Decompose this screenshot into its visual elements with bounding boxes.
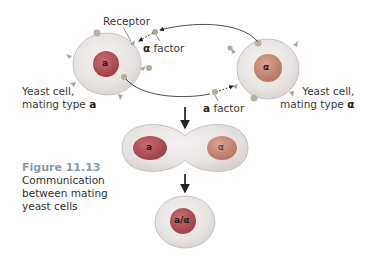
figure-number: Figure 11.13 — [22, 161, 108, 174]
free-factor — [146, 65, 152, 71]
figure-caption: Figure 11.13 Communication between matin… — [22, 161, 108, 213]
diploid-nucleus-label: a/α — [174, 214, 190, 227]
fused-nucleus-a-label: a — [146, 141, 152, 154]
alpha-factor-path — [160, 24, 258, 42]
yeast-a-line1: Yeast cell, — [22, 85, 96, 98]
yeast-alpha-line2: mating type α — [280, 98, 354, 111]
yeast-alpha-label: Yeast cell, mating type α — [283, 85, 354, 111]
alpha-factor-label: α factor — [143, 42, 184, 55]
alpha-factor-molecule — [152, 29, 158, 35]
yeast-a-line2: mating type a — [22, 98, 96, 111]
alpha-factor-text: factor — [150, 42, 184, 54]
caption-line3: yeast cells — [22, 200, 108, 213]
receptor-label: Receptor — [103, 15, 150, 28]
nucleus-alpha-label: α — [263, 61, 269, 74]
a-factor-path — [126, 79, 210, 97]
yeast-alpha-line1: Yeast cell, — [283, 85, 354, 98]
yeast-a-label: Yeast cell, mating type a — [22, 85, 96, 111]
fused-nucleus-alpha-label: α — [218, 141, 224, 154]
caption-line2: between mating — [22, 187, 108, 200]
nucleus-a-label: a — [102, 57, 108, 70]
fused-cell — [122, 125, 248, 172]
a-factor-text: factor — [210, 102, 244, 114]
a-factor-label: a factor — [203, 102, 244, 115]
caption-line1: Communication — [22, 174, 108, 187]
free-factor-alpha-side — [228, 46, 233, 51]
a-factor-molecule — [212, 89, 218, 95]
